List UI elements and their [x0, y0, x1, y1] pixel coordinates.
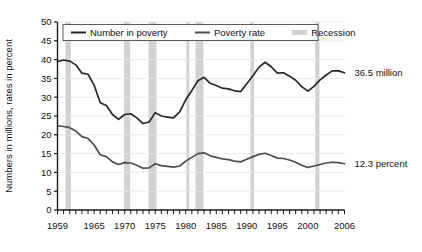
x-tick-label: 1975	[145, 220, 166, 231]
x-tick-labels-group: 1959196519701975198019851990199520002006	[47, 220, 355, 231]
y-tick-label: 40	[41, 54, 52, 65]
x-tick-label: 1995	[267, 220, 288, 231]
y-tick-label: 0	[46, 204, 51, 215]
series-end-label: 36.5 million	[355, 67, 403, 78]
y-tick-label: 20	[41, 129, 52, 140]
y-tick-labels-group: 05101520253035404550	[41, 16, 52, 215]
x-tick-label: 2006	[334, 220, 355, 231]
y-axis-title: Numbers in millions, rates in percent	[3, 39, 14, 193]
legend-label: Recession	[311, 27, 355, 38]
y-tick-label: 35	[41, 73, 52, 84]
legend-swatch-recession	[292, 30, 307, 35]
legend-label: Poverty rate	[214, 27, 265, 38]
x-tick-label: 1959	[47, 220, 68, 231]
x-tick-label: 1980	[175, 220, 196, 231]
y-tick-label: 25	[41, 110, 52, 121]
y-tick-label: 10	[41, 167, 52, 178]
legend-label: Number in poverty	[90, 27, 168, 38]
legend: Number in povertyPoverty rateRecession	[63, 25, 356, 41]
series-end-label: 12.3 percent	[355, 158, 408, 169]
x-tick-label: 1990	[236, 220, 257, 231]
poverty-chart: 05101520253035404550 1959196519701975198…	[0, 0, 422, 252]
series-end-labels-group: 36.5 million12.3 percent	[355, 67, 408, 169]
y-tick-label: 15	[41, 148, 52, 159]
x-tick-label: 1970	[114, 220, 135, 231]
chart-canvas: 05101520253035404550 1959196519701975198…	[0, 0, 422, 252]
x-tick-label: 2000	[297, 220, 318, 231]
x-tick-label: 1985	[206, 220, 227, 231]
x-tick-label: 1965	[84, 220, 105, 231]
y-tick-label: 50	[41, 16, 52, 27]
y-tick-label: 30	[41, 92, 52, 103]
y-tick-label: 5	[46, 186, 51, 197]
y-tick-label: 45	[41, 35, 52, 46]
